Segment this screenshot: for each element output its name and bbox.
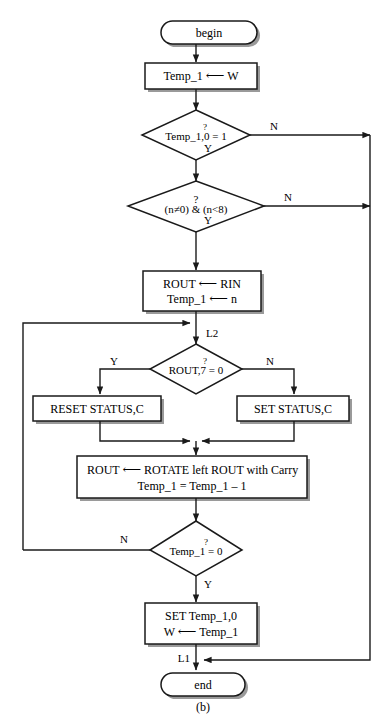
node-set-status (237, 396, 349, 421)
node-load-rout (143, 271, 261, 311)
node-shapes (33, 21, 349, 696)
node-decision-temp-bit (142, 110, 250, 160)
node-init-temp (145, 63, 257, 89)
node-reset-status (33, 396, 161, 421)
edge-dec3-no (242, 369, 294, 394)
node-decision-rout7 (150, 344, 242, 394)
node-begin (161, 21, 257, 44)
node-set-temp (145, 603, 257, 644)
node-decision-range (128, 181, 264, 232)
node-decision-temp-zero (150, 521, 242, 576)
flowchart-svg (0, 0, 391, 719)
flowchart-canvas: begin Temp_1 ⟵ W Temp_1,0 = 1 ? ? (n≠0) … (0, 0, 391, 719)
edge-dec3-yes (100, 369, 152, 394)
node-end (161, 673, 245, 696)
node-rotate (77, 456, 307, 498)
edge-loopback-to-l2 (23, 323, 190, 550)
